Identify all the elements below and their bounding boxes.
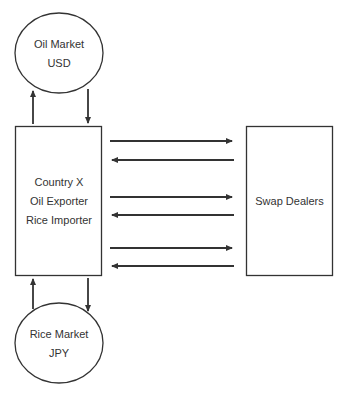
- country-x-role-2: Rice Importer: [15, 214, 103, 226]
- rice-market-label: Rice Market: [15, 328, 103, 340]
- oil-market-label: Oil Market: [15, 38, 103, 50]
- oil-market-currency: USD: [15, 57, 103, 69]
- rice-market-node: [15, 303, 103, 383]
- oil-market-node: [15, 13, 103, 93]
- swap-dealers-label: Swap Dealers: [246, 195, 333, 207]
- country-x-role-1: Oil Exporter: [15, 195, 103, 207]
- rice-market-currency: JPY: [15, 347, 103, 359]
- country-x-label: Country X: [15, 176, 103, 188]
